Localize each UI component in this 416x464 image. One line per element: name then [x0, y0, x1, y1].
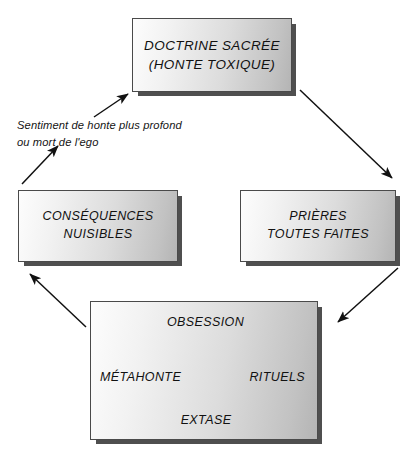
node-cycle-container: OBSESSION RITUELS EXTASE MÉTAHONTE: [90, 301, 318, 440]
arrow-doctrine-to-prieres: [300, 90, 392, 178]
node-consequences-nuisibles: CONSÉQUENCES NUISIBLES: [18, 190, 178, 262]
node-doctrine-line1: DOCTRINE SACRÉE: [144, 36, 280, 55]
cycle-label-obsession: OBSESSION: [167, 316, 244, 329]
node-consequences-line1: CONSÉQUENCES: [42, 208, 153, 226]
node-prieres-line2: TOUTES FAITES: [267, 226, 369, 244]
cycle-label-extase: EXTASE: [181, 414, 232, 427]
annotation-line1: Sentiment de honte plus profond: [17, 117, 232, 134]
arrow-cycle-to-consequences: [30, 274, 86, 327]
annotation-deeper-shame: Sentiment de honte plus profond ou mort …: [17, 117, 232, 152]
diagram-canvas: DOCTRINE SACRÉE (HONTE TOXIQUE) CONSÉQUE…: [0, 0, 416, 464]
annotation-line2: ou mort de l'ego: [17, 134, 232, 151]
node-doctrine-line2: (HONTE TOXIQUE): [149, 55, 276, 74]
node-prieres-toutes-faites: PRIÈRES TOUTES FAITES: [240, 190, 396, 262]
node-doctrine-sacree: DOCTRINE SACRÉE (HONTE TOXIQUE): [132, 18, 292, 92]
node-prieres-line1: PRIÈRES: [289, 208, 347, 226]
cycle-label-rituels: RITUELS: [249, 371, 305, 384]
arrow-consequences-to-doctrine-upper: [94, 94, 128, 117]
cycle-label-metahonte: MÉTAHONTE: [100, 371, 181, 384]
node-consequences-line2: NUISIBLES: [64, 226, 133, 244]
arrow-prieres-to-cycle: [338, 268, 398, 322]
